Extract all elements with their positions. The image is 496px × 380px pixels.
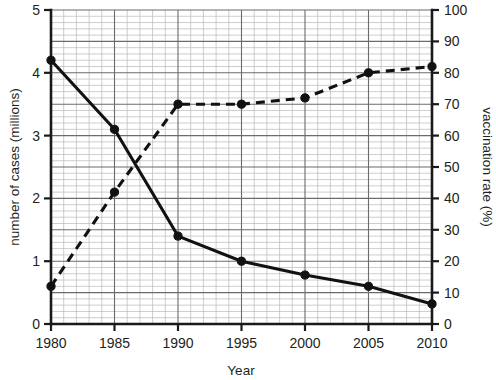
y-axis-right-tick-label: 90: [444, 33, 460, 49]
data-point-cases: [174, 232, 182, 240]
data-point-vaccination: [47, 282, 55, 290]
data-point-cases: [301, 271, 309, 279]
y-axis-right-tick-label: 10: [444, 285, 460, 301]
x-axis-title: Year: [227, 363, 255, 378]
y-axis-left-tick-label: 2: [32, 190, 40, 206]
x-axis-tick-label: 2010: [416, 335, 447, 351]
y-axis-right-tick-label: 30: [444, 222, 460, 238]
data-point-vaccination: [174, 100, 182, 108]
data-point-vaccination: [364, 69, 372, 77]
y-axis-left-tick-label: 5: [32, 2, 40, 18]
data-point-cases: [364, 282, 372, 290]
x-axis-tick-label: 1985: [99, 335, 130, 351]
x-axis-tick-label: 2005: [353, 335, 384, 351]
y-axis-left-tick-label: 4: [32, 65, 40, 81]
y-axis-right-tick-label: 80: [444, 65, 460, 81]
y-axis-right-tick-label: 40: [444, 190, 460, 206]
data-point-vaccination: [301, 94, 309, 102]
data-point-cases: [428, 300, 436, 308]
y-axis-right-tick-label: 100: [444, 2, 468, 18]
chart-container: 0123450102030405060708090100198019851990…: [0, 0, 496, 380]
x-axis-tick-label: 1995: [226, 335, 257, 351]
y-axis-right-tick-label: 20: [444, 253, 460, 269]
y-axis-right-tick-label: 60: [444, 128, 460, 144]
data-point-vaccination: [110, 188, 118, 196]
data-point-cases: [47, 56, 55, 64]
x-axis-tick-label: 1980: [35, 335, 66, 351]
y-axis-left-title: number of cases (millions): [7, 88, 22, 246]
x-axis-tick-label: 2000: [289, 335, 320, 351]
data-point-vaccination: [428, 62, 436, 70]
y-axis-right-title: vaccination rate (%): [480, 107, 495, 226]
y-axis-left-tick-label: 1: [32, 253, 40, 269]
y-axis-left-tick-label: 3: [32, 128, 40, 144]
data-point-cases: [110, 125, 118, 133]
y-axis-right-tick-label: 50: [444, 159, 460, 175]
line-chart: 0123450102030405060708090100198019851990…: [0, 0, 496, 380]
y-axis-right-tick-label: 0: [444, 316, 452, 332]
data-point-vaccination: [237, 100, 245, 108]
y-axis-right-tick-label: 70: [444, 96, 460, 112]
y-axis-left-tick-label: 0: [32, 316, 40, 332]
x-axis-tick-label: 1990: [162, 335, 193, 351]
data-point-cases: [237, 257, 245, 265]
